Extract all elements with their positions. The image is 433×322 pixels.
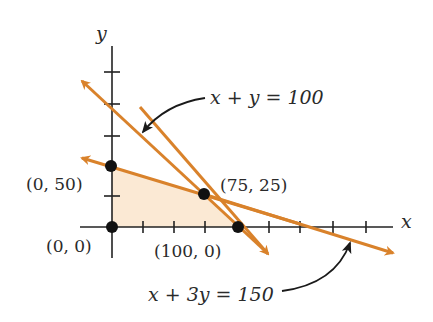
point-label-0-50: (0, 50) xyxy=(26,174,83,194)
line1-label: x + y = 100 xyxy=(210,86,324,108)
point-label-75-25: (75, 25) xyxy=(220,175,287,195)
point-0-0 xyxy=(106,221,118,233)
pointer-arrow-line1 xyxy=(143,98,205,132)
point-100-0 xyxy=(232,221,244,233)
line2-label: x + 3y = 150 xyxy=(148,283,274,305)
pointer-arrow-line2 xyxy=(282,243,350,291)
point-label-100-0: (100, 0) xyxy=(154,241,221,261)
lp-diagram: y x (0, 50) (75, 25) (0, 0) (100, 0) x +… xyxy=(0,0,433,322)
x-axis-label: x xyxy=(401,210,412,232)
point-75-25 xyxy=(198,188,210,200)
point-0-50 xyxy=(105,160,117,172)
y-axis-label: y xyxy=(95,22,107,44)
point-label-0-0: (0, 0) xyxy=(46,236,92,256)
